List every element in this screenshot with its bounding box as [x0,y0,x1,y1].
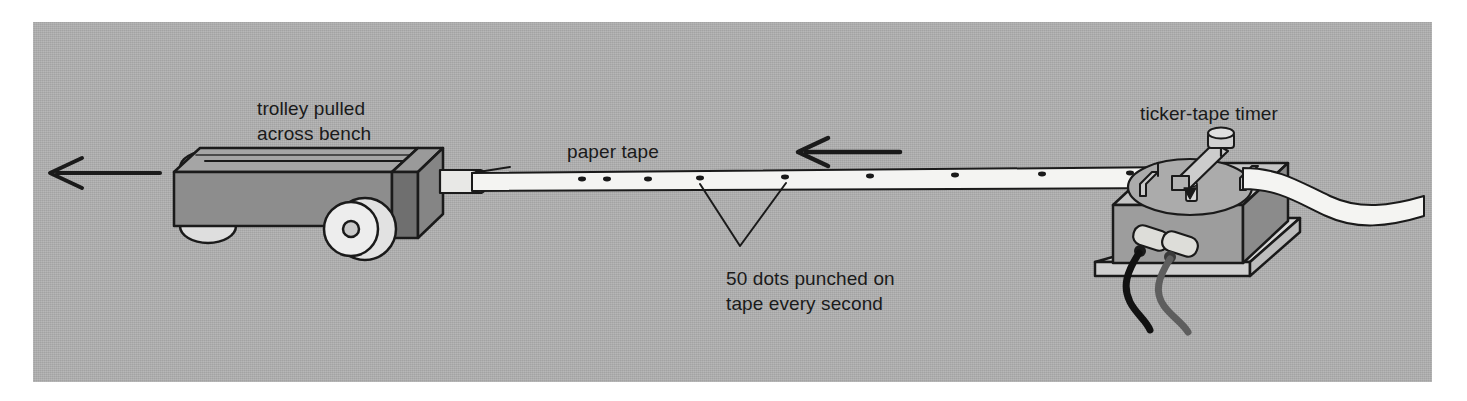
pull-direction-arrow [50,158,160,188]
tape-dot [951,173,959,178]
figure-canvas: trolley pulled across bench paper tape 5… [0,0,1467,401]
tape-dot [603,177,611,182]
diagram-artwork [0,0,1467,401]
paper-tape [472,167,1180,191]
tape-dot [578,177,586,182]
label-trolley-pulled-across-bench: trolley pulled across bench [257,96,371,146]
tape-dot [644,177,652,182]
ticker-tape-timer [1095,128,1300,333]
tape-dot [866,174,874,179]
label-ticker-tape-timer: ticker-tape timer [1140,101,1278,126]
trolley [174,148,487,260]
dots-leader-line [700,183,786,246]
label-paper-tape: paper tape [567,139,659,164]
tape-dot [696,176,704,181]
trolley-front-wheel-hub [343,221,359,237]
label-dots-per-second: 50 dots punched on tape every second [726,266,895,316]
tape-dot [781,175,789,180]
tape-dot [1038,172,1046,177]
tape-motion-arrow [798,138,900,166]
